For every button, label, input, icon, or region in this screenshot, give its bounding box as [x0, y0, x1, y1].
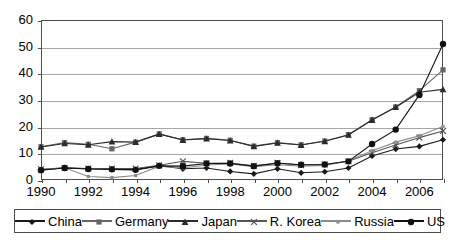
- legend-marker-cross-icon: [237, 215, 267, 227]
- legend-item-r-korea[interactable]: R. Korea: [237, 215, 321, 228]
- y-axis-tick: [38, 74, 42, 75]
- chart-legend: ChinaGermanyJapanR. KoreaRussiaUS: [14, 209, 441, 233]
- x-axis-tick: [255, 179, 256, 183]
- legend-item-us[interactable]: US: [394, 215, 445, 228]
- legend-label: US: [427, 215, 445, 228]
- y-axis-tick: [38, 21, 42, 22]
- x-axis-tick: [113, 179, 114, 183]
- x-axis-tick: [420, 179, 421, 183]
- legend-marker-diamond-icon: [15, 215, 45, 227]
- x-axis-tick-label: 2006: [396, 185, 442, 198]
- y-axis-tick-label: 50: [3, 40, 33, 53]
- legend-item-germany[interactable]: Germany: [82, 215, 168, 228]
- x-axis-tick: [160, 179, 161, 183]
- legend-item-china[interactable]: China: [15, 215, 82, 228]
- x-axis-tick-label: 2004: [349, 185, 395, 198]
- x-axis-tick: [373, 179, 374, 183]
- x-axis-tick: [397, 179, 398, 183]
- x-axis-tick-label: 1990: [18, 185, 64, 198]
- y-axis-tick-label: 30: [3, 93, 33, 106]
- x-axis-tick-label: 1994: [113, 185, 159, 198]
- gridline: [42, 128, 442, 129]
- x-axis-tick-label: 1996: [160, 185, 206, 198]
- x-axis-tick: [208, 179, 209, 183]
- legend-item-japan[interactable]: Japan: [168, 215, 236, 228]
- x-axis-tick: [42, 179, 43, 183]
- legend-marker-triangle-icon: [168, 215, 198, 227]
- y-axis-tick: [38, 101, 42, 102]
- gridline: [42, 48, 442, 49]
- legend-label: R. Korea: [270, 215, 321, 228]
- legend-label: China: [48, 215, 82, 228]
- chart-container: 0102030405060 19901992199419961998200020…: [0, 0, 455, 245]
- legend-label: Germany: [115, 215, 168, 228]
- legend-item-russia[interactable]: Russia: [321, 215, 394, 228]
- x-axis-tick: [278, 179, 279, 183]
- x-axis-tick-label: 1998: [207, 185, 253, 198]
- x-axis-tick: [137, 179, 138, 183]
- x-axis-tick-label: 2002: [302, 185, 348, 198]
- y-axis-tick-label: 60: [3, 13, 33, 26]
- legend-label: Japan: [201, 215, 236, 228]
- legend-marker-circle-icon: [394, 215, 424, 227]
- x-axis-tick: [326, 179, 327, 183]
- y-axis-tick-label: 10: [3, 146, 33, 159]
- legend-label: Russia: [354, 215, 394, 228]
- x-axis-tick: [231, 179, 232, 183]
- gridline: [42, 154, 442, 155]
- x-axis-tick: [184, 179, 185, 183]
- legend-marker-square-icon: [82, 215, 112, 227]
- gridline: [42, 101, 442, 102]
- legend-marker-dot-square-icon: [321, 215, 351, 227]
- x-axis-tick: [302, 179, 303, 183]
- x-axis-tick: [349, 179, 350, 183]
- x-axis-tick: [444, 179, 445, 183]
- x-axis-tick-label: 1992: [65, 185, 111, 198]
- plot-area: [41, 20, 443, 180]
- y-axis-tick: [38, 154, 42, 155]
- y-axis-tick-label: 20: [3, 120, 33, 133]
- y-axis-tick-label: 40: [3, 66, 33, 79]
- y-axis-tick: [38, 48, 42, 49]
- gridline: [42, 74, 442, 75]
- x-axis-tick: [66, 179, 67, 183]
- y-axis-tick: [38, 128, 42, 129]
- x-axis-tick-label: 2000: [254, 185, 300, 198]
- x-axis-tick: [89, 179, 90, 183]
